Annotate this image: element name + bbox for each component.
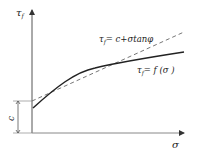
x-axis-label: σ [172,139,180,150]
linear-envelope-label: τf= c+σtanφ [99,34,153,46]
y-axis-label: τf [16,7,26,20]
nonlinear-envelope-label: τf= f (σ ) [137,65,175,77]
strength-envelope-diagram: τf σ c τf= c+σtanφ τf= f (σ ) [0,0,198,161]
nonlinear-envelope-solid [33,52,184,108]
c-label: c [6,116,16,121]
